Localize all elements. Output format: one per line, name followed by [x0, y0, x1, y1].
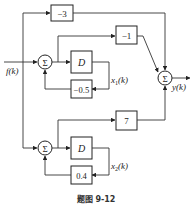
- svg-text:−3: −3: [57, 9, 67, 19]
- svg-text:0.4: 0.4: [76, 171, 87, 181]
- wire-gain-upper-to-sum-out: [137, 36, 158, 72]
- wire-gain-lower-to-sum-out: [137, 86, 165, 120]
- svg-text:D: D: [77, 143, 86, 154]
- feedback-1-block: −0.5: [71, 80, 92, 98]
- delay-2-block: D: [71, 137, 92, 159]
- input-label: f(k): [6, 66, 19, 76]
- gain-lower-block: 7: [116, 111, 137, 130]
- svg-text:Σ: Σ: [162, 74, 167, 84]
- output-label: y(k): [171, 82, 186, 92]
- svg-text:7: 7: [124, 116, 129, 126]
- svg-text:Σ: Σ: [42, 144, 47, 154]
- gain-top-block: −3: [51, 5, 73, 21]
- summer-2: Σ: [38, 141, 52, 155]
- wire-feedback2-to-sum2: [45, 156, 71, 175]
- svg-text:Σ: Σ: [42, 58, 47, 68]
- state-x2-label: x2(k): [110, 161, 128, 172]
- wire-delay2-feedback: [92, 148, 109, 175]
- wire-delay1-feedback: [92, 62, 109, 89]
- state-x1-label: x1(k): [110, 75, 128, 86]
- svg-text:−1: −1: [122, 31, 132, 41]
- gain-upper-block: −1: [116, 26, 137, 44]
- summer-output: Σ: [158, 71, 172, 85]
- figure-caption: 题图 9-12: [76, 194, 116, 204]
- summer-1: Σ: [38, 55, 52, 69]
- svg-text:D: D: [77, 57, 86, 68]
- wire-feedback1-to-sum1: [45, 70, 71, 89]
- delay-1-block: D: [71, 51, 92, 73]
- block-diagram: f(k) −3 Σ −1 D x1(k) −0.5 Σ: [0, 0, 193, 207]
- input-signal: f(k): [4, 62, 37, 76]
- svg-text:−0.5: −0.5: [74, 85, 89, 95]
- feedback-2-block: 0.4: [71, 166, 92, 184]
